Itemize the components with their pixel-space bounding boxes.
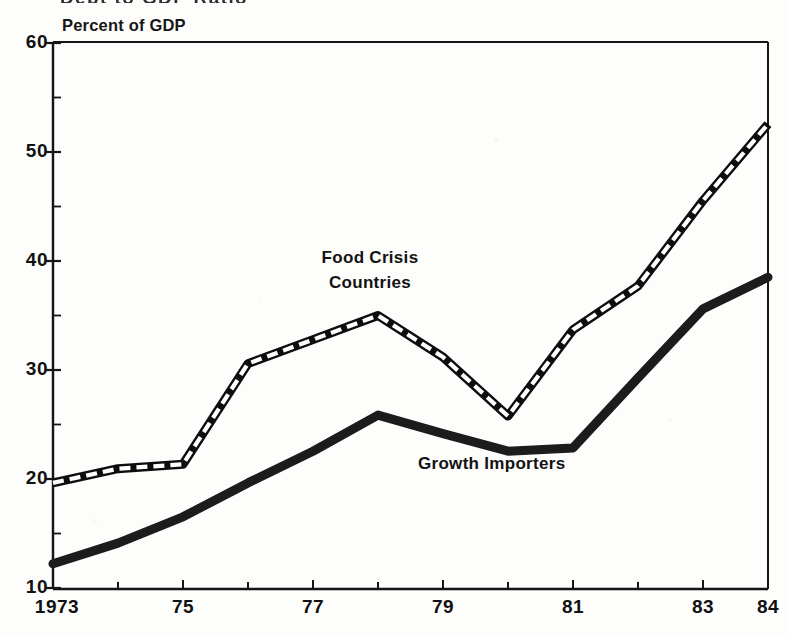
series-growth-importers xyxy=(53,277,768,564)
chart-axes xyxy=(53,42,768,589)
chart-figure: Debt to GDP Ratio Percent of GDP 60 50 4… xyxy=(0,0,788,636)
x-axis-ticks xyxy=(53,580,768,589)
plot-area xyxy=(0,0,788,636)
